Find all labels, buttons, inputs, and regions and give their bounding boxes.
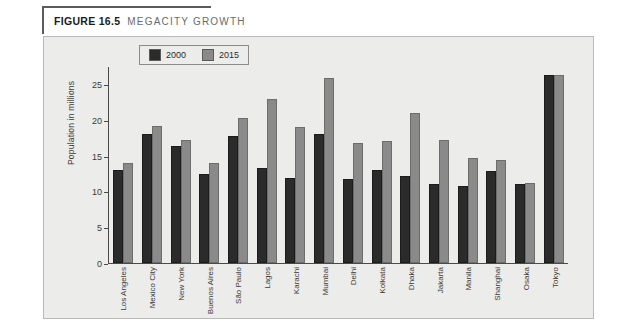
caption-top-rule (42, 6, 211, 8)
x-tick-label: Buenos Aires (205, 267, 214, 314)
x-tick-label: Mumbai (320, 267, 329, 295)
y-tick-label: 20 (92, 116, 102, 126)
bar-2015 (525, 183, 535, 263)
x-label-cell: Mumbai (310, 265, 339, 319)
bar-group (453, 67, 482, 263)
legend-label-2000: 2000 (166, 50, 186, 60)
x-tick-label: Manila (464, 267, 473, 291)
figure-title: MEGACITY GROWTH (127, 16, 245, 27)
x-axis-line (108, 263, 568, 264)
y-tick-mark (104, 121, 108, 122)
bar-2015 (209, 163, 219, 263)
x-tick-label: Jakarta (435, 267, 444, 293)
bar-2015 (267, 99, 277, 263)
x-tick-label: Delhi (349, 267, 358, 285)
x-tick-label: New York (176, 267, 185, 301)
x-label-cell: Manila (454, 265, 483, 319)
bar-2015 (353, 143, 363, 263)
bar-2015 (382, 141, 392, 263)
bar-2000 (458, 186, 468, 263)
y-tick-mark (104, 157, 108, 158)
bar-2000 (400, 176, 410, 263)
x-label-cell: Karachi (282, 265, 311, 319)
x-tick-label: Kolkata (378, 267, 387, 294)
chart-panel: 2000 2015 Population in millions 0510152… (43, 36, 594, 319)
bar-2015 (181, 140, 191, 263)
bar-2015 (238, 118, 248, 263)
bar-2000 (142, 134, 152, 263)
bar-group (166, 67, 195, 263)
bar-2015 (496, 160, 506, 263)
bar-2000 (228, 136, 238, 263)
square-swatch-icon (202, 49, 214, 61)
bar-group (224, 67, 253, 263)
bar-2015 (324, 78, 334, 263)
x-tick-label: Mexico City (148, 267, 157, 308)
bar-2000 (113, 170, 123, 263)
square-swatch-icon (149, 49, 161, 61)
x-label-cell: São Paulo (224, 265, 253, 319)
bar-group (511, 67, 540, 263)
y-tick-label: 25 (92, 80, 102, 90)
bar-2000 (343, 179, 353, 263)
y-tick-label: 5 (97, 223, 102, 233)
bar-2000 (372, 170, 382, 263)
legend-item-2000: 2000 (149, 49, 186, 61)
x-label-cell: New York (167, 265, 196, 319)
bar-series-container (109, 67, 568, 263)
bar-group (367, 67, 396, 263)
plot-area: 0510152025 (108, 67, 568, 264)
y-tick-mark (104, 228, 108, 229)
bar-2015 (410, 113, 420, 263)
x-label-cell: Lagos (253, 265, 282, 319)
x-label-cell: Shanghai (483, 265, 512, 319)
bar-group (109, 67, 138, 263)
bar-group (281, 67, 310, 263)
figure-container: FIGURE 16.5MEGACITY GROWTH 2000 2015 Pop… (0, 0, 628, 335)
bar-group (396, 67, 425, 263)
y-tick-label: 15 (92, 152, 102, 162)
chart-legend: 2000 2015 (139, 45, 249, 65)
bar-2000 (429, 184, 439, 263)
bar-group (339, 67, 368, 263)
bar-2000 (314, 134, 324, 263)
y-tick-label: 10 (92, 187, 102, 197)
figure-number: FIGURE 16.5 (54, 15, 120, 27)
x-label-cell: Tokyo (540, 265, 569, 319)
x-label-cell: Delhi (339, 265, 368, 319)
x-label-cell: Dhaka (397, 265, 426, 319)
bar-group (195, 67, 224, 263)
y-tick-mark (104, 192, 108, 193)
figure-caption: FIGURE 16.5MEGACITY GROWTH (54, 11, 246, 29)
x-tick-label: Los Angeles (119, 267, 128, 311)
bar-group (482, 67, 511, 263)
bar-group (252, 67, 281, 263)
bar-2015 (152, 126, 162, 263)
x-tick-label: Shanghai (493, 267, 502, 301)
x-tick-label: São Paulo (234, 267, 243, 304)
y-tick-mark (104, 85, 108, 86)
bar-2000 (486, 171, 496, 263)
bar-2000 (199, 174, 209, 263)
bar-2015 (554, 75, 564, 263)
bar-2000 (285, 178, 295, 263)
bar-2000 (515, 184, 525, 263)
bar-2015 (439, 140, 449, 263)
x-tick-label: Dhaka (406, 267, 415, 290)
bar-2000 (171, 146, 181, 263)
bar-2000 (257, 168, 267, 263)
bar-2015 (468, 158, 478, 263)
x-label-cell: Mexico City (138, 265, 167, 319)
x-tick-label: Karachi (291, 267, 300, 294)
bar-group (138, 67, 167, 263)
x-axis-labels: Los AngelesMexico CityNew YorkBuenos Air… (109, 265, 569, 319)
bar-group (310, 67, 339, 263)
x-label-cell: Jakarta (425, 265, 454, 319)
x-tick-label: Osaka (521, 267, 530, 290)
x-label-cell: Osaka (512, 265, 541, 319)
x-label-cell: Los Angeles (109, 265, 138, 319)
y-axis-label: Population in millions (66, 81, 76, 165)
caption-left-rule (42, 6, 44, 34)
bar-2015 (123, 163, 133, 263)
bar-group (425, 67, 454, 263)
